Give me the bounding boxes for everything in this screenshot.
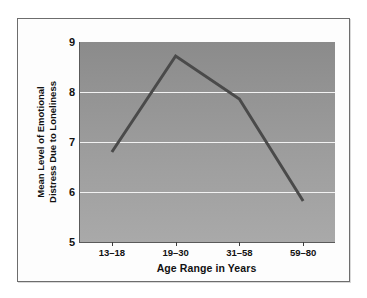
y-tick-label-7: 7: [69, 137, 75, 148]
x-tick-label-3: 59–80: [290, 248, 316, 258]
y-tick-label-9: 9: [69, 37, 75, 48]
y-tick-label-8: 8: [69, 87, 75, 98]
x-tick-label-2: 31–58: [226, 248, 252, 258]
y-axis-title: Mean Level of Emotional Distress Due to …: [35, 0, 63, 42]
x-tick-mark-3: [303, 242, 304, 246]
y-tick-label-5: 5: [69, 237, 75, 248]
figure-frame: Mean Level of Emotional Distress Due to …: [17, 18, 350, 282]
series-line-chart: [80, 42, 335, 242]
y-axis-title-line-1: Mean Level of Emotional: [35, 42, 47, 242]
x-tick-mark-0: [112, 242, 113, 246]
y-tick-label-6: 6: [69, 187, 75, 198]
series-line-loneliness: [112, 56, 303, 201]
x-tick-mark-2: [239, 242, 240, 246]
plot-area: 98765 13–1819–3031–5859–80: [79, 42, 335, 243]
y-axis-title-line-2: Distress Due to Loneliness: [47, 42, 59, 242]
x-tick-mark-1: [176, 242, 177, 246]
x-axis-title: Age Range in Years: [79, 262, 334, 274]
x-tick-label-1: 19–30: [162, 248, 188, 258]
x-tick-label-0: 13–18: [99, 248, 125, 258]
